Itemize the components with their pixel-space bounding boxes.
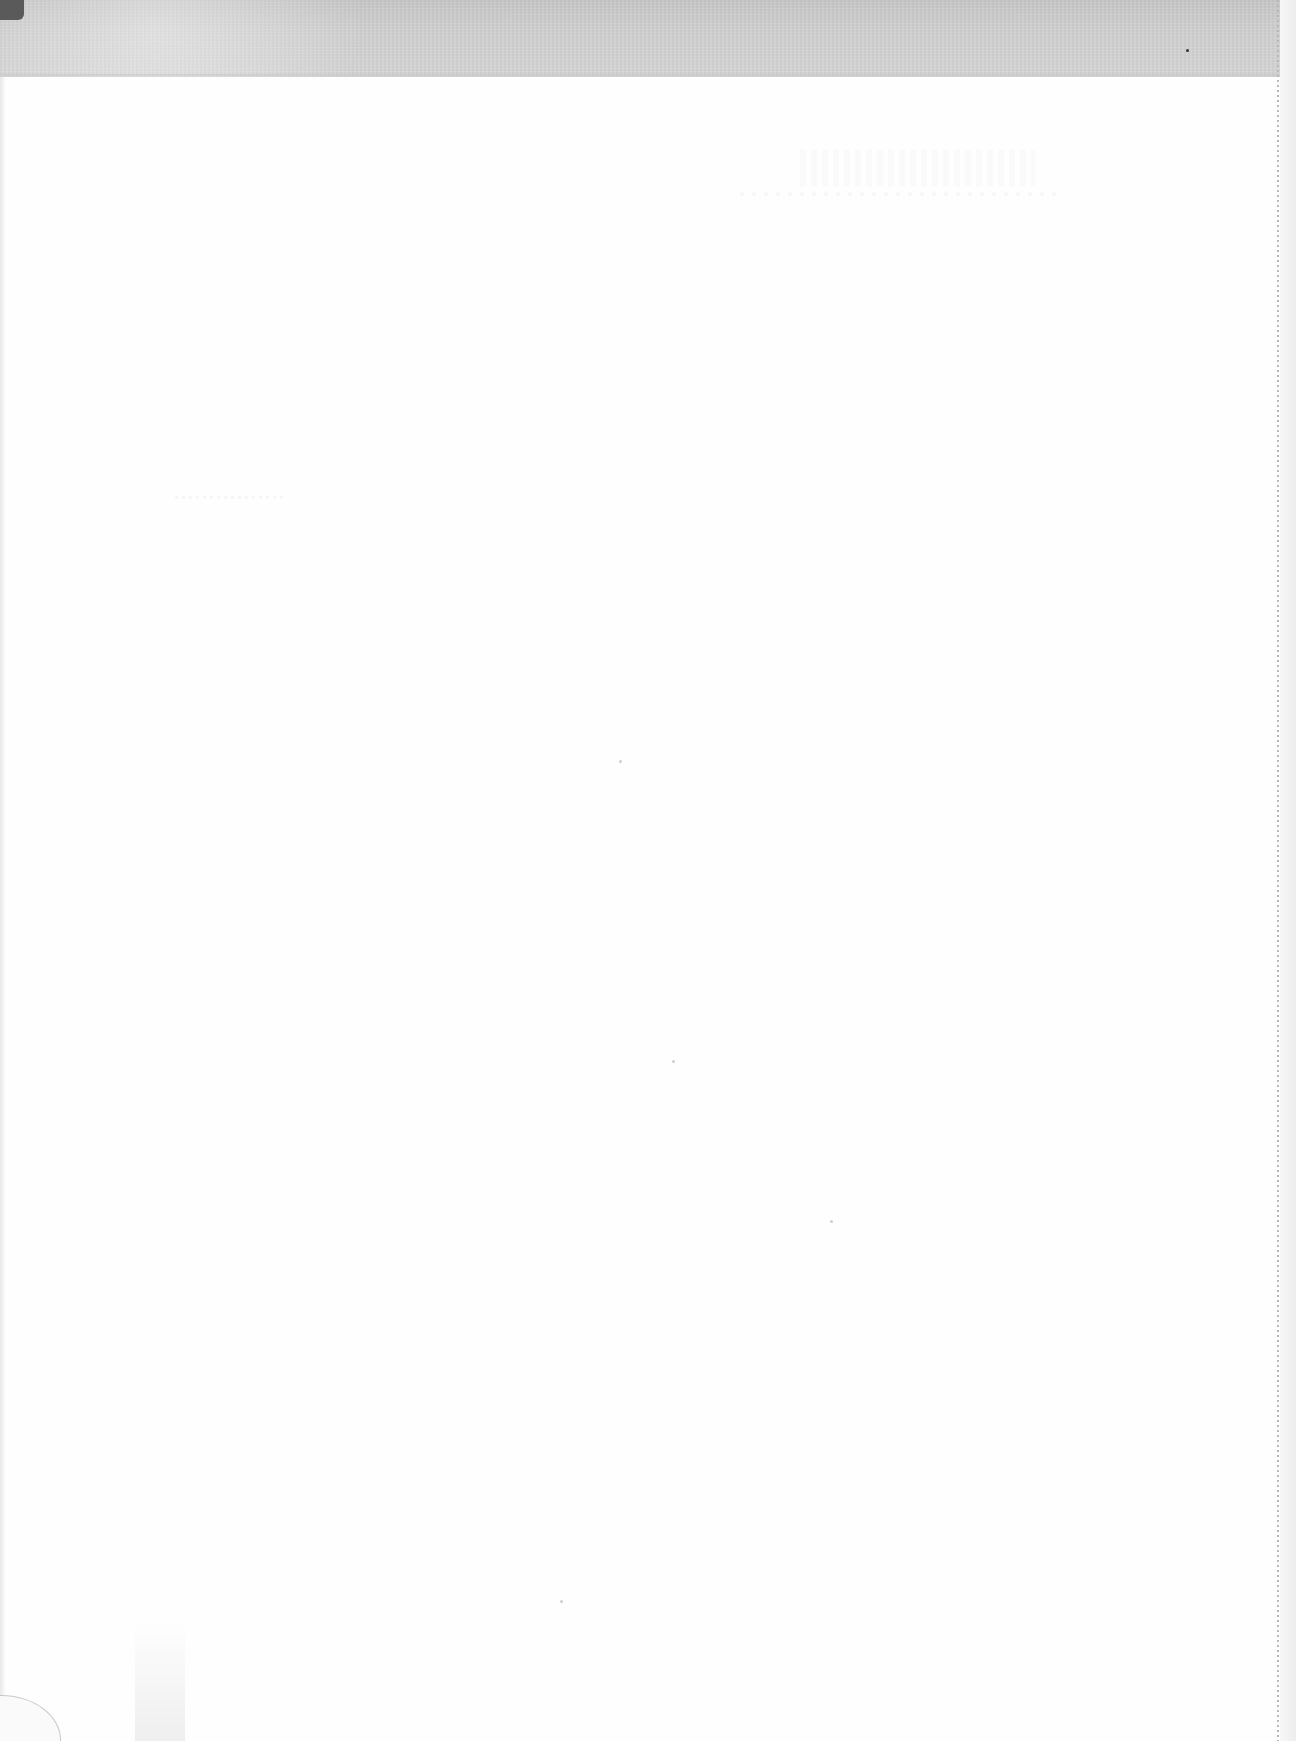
scanned-page: { "document": { "type": "scanned-page", … (0, 0, 1296, 1741)
scanner-noise-band (0, 0, 1296, 77)
bleed-through-heading (800, 150, 1035, 186)
bottom-smudge (135, 1621, 185, 1741)
scan-speck (619, 760, 622, 763)
scanner-corner-shadow (0, 0, 24, 20)
bleed-through-line (175, 496, 285, 499)
scan-speck (830, 1220, 833, 1223)
scan-speck (672, 1060, 675, 1063)
bleed-through-subline (740, 192, 1060, 196)
scan-speck (560, 1600, 563, 1603)
page-curl-corner (0, 1695, 61, 1741)
left-page-edge (0, 77, 6, 1741)
scan-speck (1186, 49, 1189, 52)
perforation-line (1277, 0, 1279, 1741)
right-margin-strip (1280, 0, 1296, 1741)
